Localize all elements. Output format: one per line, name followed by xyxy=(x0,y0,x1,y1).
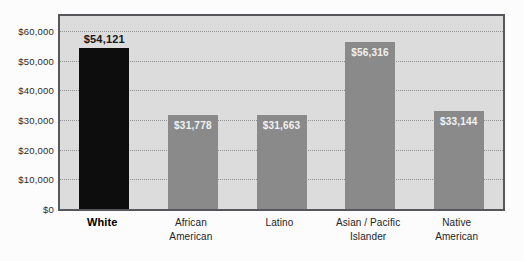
y-axis-tick-label: $0 xyxy=(0,204,54,215)
bar-african-american[interactable]: $31,778 xyxy=(168,115,218,209)
category-label-white: White xyxy=(58,216,147,230)
bar-native-american[interactable]: $33,144 xyxy=(434,111,484,209)
category-label-asian-pacific-islander: Asian / PacificIslander xyxy=(324,216,413,243)
x-axis-category-labels: WhiteAfricanAmericanLatinoAsian / Pacifi… xyxy=(58,216,505,258)
bar-asian-pacific-islander[interactable]: $56,316 xyxy=(345,42,395,209)
y-axis: $0$10,000$20,000$30,000$40,000$50,000$60… xyxy=(0,14,54,211)
category-label-line2: American xyxy=(147,230,236,244)
category-label-line2: American xyxy=(412,230,501,244)
category-label-latino: Latino xyxy=(235,216,324,230)
gridline xyxy=(60,31,503,32)
bar-value-label: $56,316 xyxy=(345,47,395,58)
category-label-line2: Islander xyxy=(324,230,413,244)
bar-value-label: $54,121 xyxy=(67,33,141,45)
category-label-line1: Latino xyxy=(266,217,294,228)
y-axis-tick-label: $10,000 xyxy=(0,174,54,185)
category-label-line1: African xyxy=(175,217,207,228)
plot-frame: $54,121$31,778$31,663$56,316$33,144 xyxy=(58,14,505,211)
y-axis-tick-label: $40,000 xyxy=(0,85,54,96)
category-label-african-american: AfricanAmerican xyxy=(147,216,236,243)
category-label-line1: White xyxy=(87,216,117,228)
category-label-line1: Native xyxy=(442,217,471,228)
y-axis-tick-label: $60,000 xyxy=(0,25,54,36)
category-label-line1: Asian / Pacific xyxy=(336,217,400,228)
category-label-native-american: NativeAmerican xyxy=(412,216,501,243)
chart-page: $0$10,000$20,000$30,000$40,000$50,000$60… xyxy=(0,0,524,261)
y-axis-tick-label: $30,000 xyxy=(0,114,54,125)
plot-area: $54,121$31,778$31,663$56,316$33,144 xyxy=(60,16,503,209)
y-axis-tick-label: $50,000 xyxy=(0,55,54,66)
bar-value-label: $33,144 xyxy=(434,116,484,127)
bar-latino[interactable]: $31,663 xyxy=(257,115,307,209)
bar-value-label: $31,778 xyxy=(168,120,218,131)
y-axis-tick-label: $20,000 xyxy=(0,144,54,155)
bar-value-label: $31,663 xyxy=(257,120,307,131)
bar-white[interactable]: $54,121 xyxy=(79,48,129,209)
